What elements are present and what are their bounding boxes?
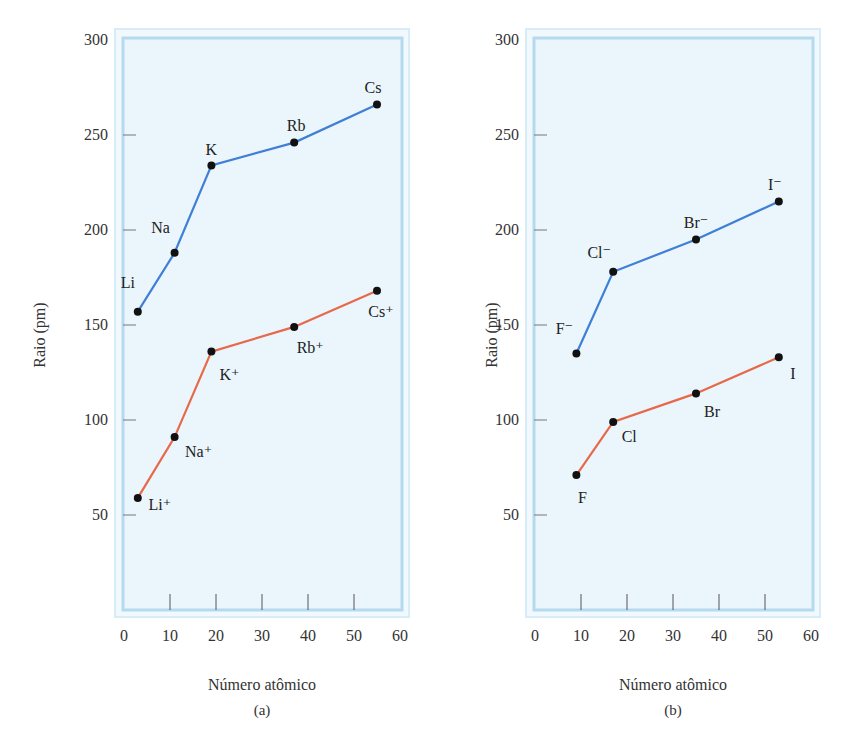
chart-panel-b: 501001502002503000102030405060Número atô… <box>483 28 821 719</box>
y-tick-label: 250 <box>495 126 519 143</box>
x-tick-label: 20 <box>619 627 635 644</box>
point-label: Rb <box>287 117 306 134</box>
point-label: Li <box>121 274 136 291</box>
point-label: I <box>790 365 795 382</box>
point-label: F <box>578 489 587 506</box>
point-label: Rb⁺ <box>297 339 324 356</box>
data-point <box>692 236 700 244</box>
point-label: Cl <box>622 428 638 445</box>
figure: 501001502002503000102030405060Número atô… <box>0 0 856 743</box>
x-tick-label: 10 <box>162 627 178 644</box>
x-tick-label: 0 <box>531 627 539 644</box>
data-point <box>775 198 783 206</box>
point-label: Cs <box>365 79 382 96</box>
data-point <box>609 418 617 426</box>
panel-caption: (b) <box>664 702 682 719</box>
data-point <box>373 287 381 295</box>
data-point <box>171 249 179 257</box>
y-axis-title: Raio (pm) <box>31 302 49 367</box>
data-point <box>290 323 298 331</box>
y-tick-label: 300 <box>495 31 519 48</box>
x-tick-label: 60 <box>392 627 408 644</box>
point-label: Na <box>151 219 170 236</box>
point-label: I⁻ <box>768 176 782 193</box>
point-label: Br⁻ <box>684 214 708 231</box>
x-tick-label: 10 <box>573 627 589 644</box>
y-tick-label: 50 <box>92 506 108 523</box>
y-tick-label: 100 <box>495 411 519 428</box>
y-tick-label: 200 <box>495 221 519 238</box>
point-label: Cl⁻ <box>587 244 611 261</box>
y-tick-label: 100 <box>84 411 108 428</box>
x-tick-label: 30 <box>665 627 681 644</box>
data-point <box>373 101 381 109</box>
point-label: Br <box>704 403 721 420</box>
data-point <box>290 139 298 147</box>
plot-area <box>534 38 813 610</box>
data-point <box>692 389 700 397</box>
y-tick-label: 250 <box>84 126 108 143</box>
y-tick-label: 300 <box>84 31 108 48</box>
y-tick-label: 50 <box>503 506 519 523</box>
chart-panel-a: 501001502002503000102030405060Número atô… <box>31 28 410 719</box>
y-tick-label: 200 <box>84 221 108 238</box>
point-label: K⁺ <box>219 366 239 383</box>
point-label: K <box>206 141 218 158</box>
point-label: Li⁺ <box>148 496 171 513</box>
x-axis-title: Número atômico <box>208 676 316 693</box>
x-tick-label: 40 <box>300 627 316 644</box>
data-point <box>775 353 783 361</box>
x-tick-label: 30 <box>254 627 270 644</box>
data-point <box>134 308 142 316</box>
point-label: Na⁺ <box>185 443 212 460</box>
point-label: Cs⁺ <box>368 303 393 320</box>
y-axis-title: Raio (pm) <box>483 302 501 367</box>
data-point <box>171 433 179 441</box>
data-point <box>572 471 580 479</box>
plot-area <box>123 38 402 610</box>
x-tick-label: 20 <box>208 627 224 644</box>
x-tick-label: 50 <box>346 627 362 644</box>
x-tick-label: 60 <box>803 627 819 644</box>
panel-caption: (a) <box>254 702 271 719</box>
data-point <box>609 268 617 276</box>
data-point <box>572 350 580 358</box>
data-point <box>134 494 142 502</box>
point-label: F⁻ <box>556 320 573 337</box>
x-tick-label: 40 <box>711 627 727 644</box>
x-axis-title: Número atômico <box>619 676 727 693</box>
data-point <box>207 161 215 169</box>
x-tick-label: 0 <box>120 627 128 644</box>
y-tick-label: 150 <box>84 316 108 333</box>
data-point <box>207 348 215 356</box>
x-tick-label: 50 <box>757 627 773 644</box>
